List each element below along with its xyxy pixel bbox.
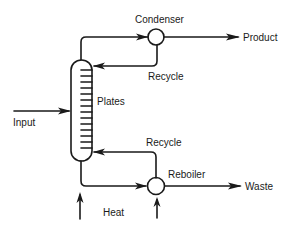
- distillation-column: [71, 60, 92, 161]
- bottoms-line: [81, 161, 147, 190]
- distillation-diagram: Condenser Product Recycle Plates Input R…: [0, 0, 294, 229]
- input-label: Input: [13, 117, 35, 128]
- heat-arrow-column: [77, 192, 84, 219]
- bottom-recycle-line: [93, 149, 156, 179]
- plates-label: Plates: [97, 96, 125, 107]
- condenser-icon: [148, 29, 164, 45]
- product-label: Product: [243, 32, 278, 43]
- product-arrow: [164, 34, 240, 41]
- waste-arrow: [165, 183, 242, 190]
- input-arrow: [14, 108, 71, 115]
- reboiler-icon: [148, 178, 165, 195]
- heat-arrow-reboiler: [154, 197, 161, 218]
- waste-label: Waste: [245, 181, 273, 192]
- top-recycle-label: Recycle: [148, 71, 184, 82]
- bottom-recycle-label: Recycle: [146, 137, 182, 148]
- reboiler-label: Reboiler: [168, 169, 206, 180]
- vapor-line: [81, 34, 148, 61]
- column-plates: [81, 70, 92, 148]
- heat-label: Heat: [103, 207, 124, 218]
- top-recycle-line: [93, 45, 157, 70]
- condenser-label: Condenser: [135, 14, 185, 25]
